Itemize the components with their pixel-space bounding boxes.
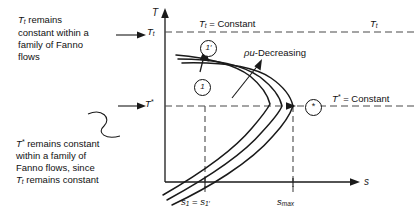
y-tick-label-Tstar: T* bbox=[145, 98, 153, 110]
note-Tstar-line1: remains constant bbox=[27, 138, 99, 149]
x-axis-label: s bbox=[364, 176, 369, 189]
note-Tt-line3: family of Fanno bbox=[18, 39, 83, 50]
note-Tstar-symbol: T* bbox=[16, 138, 24, 149]
label-rho-u-decreasing: ρu-Decreasing bbox=[244, 47, 306, 59]
x-tick-label-smax: smax bbox=[277, 196, 294, 209]
note-Tstar-line3: Fanno flows, since bbox=[16, 162, 95, 173]
rho-u-decreasing-text: -Decreasing bbox=[255, 47, 306, 58]
note-Tt-constant: Tt remains constant within a family of F… bbox=[18, 14, 118, 63]
label-Tstar-constant-text: = Constant bbox=[343, 93, 389, 104]
label-Tt-right: Tt bbox=[370, 18, 378, 31]
label-Tt-constant-text: = Constant bbox=[209, 18, 255, 29]
fanno-curve-outer bbox=[163, 55, 270, 195]
note-top-pointer-arrow bbox=[116, 31, 146, 38]
note-bottom-pointer-arrow bbox=[118, 102, 146, 109]
y-axis-label: T bbox=[152, 7, 158, 20]
rho-u-decreasing-arrow bbox=[232, 59, 262, 98]
note-Tstar-line4-symbol: Tt bbox=[16, 174, 24, 185]
x-tick-label-s1: s1 = s1′ bbox=[181, 196, 210, 209]
note-Tstar-line4: remains constant bbox=[26, 174, 98, 185]
y-tick-label-Tt: Tt bbox=[147, 26, 155, 39]
note-Tt-symbol: Tt bbox=[18, 14, 26, 25]
rho-u-symbol: ρu bbox=[244, 47, 255, 58]
point-sonic: * bbox=[305, 99, 322, 116]
note-Tt-line4: flows bbox=[18, 51, 40, 62]
point-1-prime: 1′ bbox=[200, 40, 217, 57]
label-Tt-constant: Tt = Constant bbox=[199, 18, 255, 31]
note-Tt-line1: remains bbox=[28, 14, 62, 25]
note-Tstar-constant: T* remains constant within a family of F… bbox=[16, 138, 134, 187]
fanno-curve-middle bbox=[167, 59, 282, 200]
y-axis bbox=[161, 8, 169, 182]
note-Tt-line2: constant within a bbox=[18, 27, 89, 38]
note-bottom-pointer bbox=[88, 112, 120, 137]
diagram-canvas: Tt remains constant within a family of F… bbox=[0, 0, 418, 222]
point-1: 1 bbox=[194, 79, 211, 96]
label-Tstar-constant: T* = Constant bbox=[332, 93, 389, 105]
note-Tstar-line2: within a family of bbox=[16, 150, 86, 161]
fanno-curve-inner bbox=[172, 63, 293, 205]
sonic-point-arrow bbox=[286, 102, 296, 110]
